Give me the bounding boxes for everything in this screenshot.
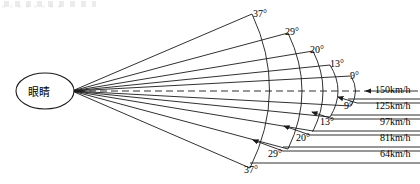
- figure-canvas: 眼睛 37° 29° 20° 13° 9° 9° 13° 20° 29° 37°…: [0, 0, 420, 184]
- eye-node: [16, 73, 74, 109]
- ray-13-lower: [72, 91, 330, 117]
- ray-group-upper: [72, 14, 351, 91]
- ray-20-upper: [72, 51, 313, 91]
- ray-29-upper: [72, 33, 288, 91]
- ray-13-upper: [72, 65, 330, 91]
- ray-9-lower: [72, 91, 351, 106]
- callout-line-97: [312, 112, 420, 119]
- scan-artifact-top-secondary: [2, 5, 62, 8]
- callout-line-125: [338, 97, 420, 103]
- callout-line-64: [253, 140, 420, 151]
- callout-line-81: [284, 126, 420, 135]
- eye-viewcone-diagram: [0, 0, 420, 184]
- ray-37-lower: [72, 91, 250, 168]
- ray-29-lower: [72, 91, 288, 149]
- ray-group-lower: [72, 91, 351, 168]
- ray-9-upper: [72, 76, 351, 91]
- ray-20-lower: [72, 91, 313, 131]
- ray-37-upper: [72, 14, 252, 91]
